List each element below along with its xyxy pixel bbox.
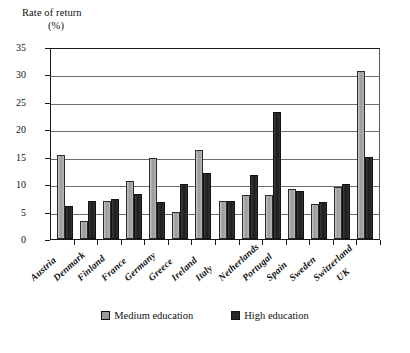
y-tick-label-10: 10 — [0, 180, 26, 190]
bar-greece-medium — [172, 212, 180, 239]
bar-portugal-medium — [265, 195, 273, 239]
legend-item-medium-education: Medium education — [101, 310, 193, 321]
x-axis-label-ireland: Ireland — [169, 254, 199, 283]
x-axis-label-austria: Austria — [28, 254, 58, 283]
y-tick-label-0: 0 — [0, 235, 26, 245]
bar-netherlands-high — [250, 175, 258, 239]
bar-group-finland — [103, 49, 119, 239]
bar-sweden-high — [319, 202, 327, 239]
bar-greece-high — [180, 184, 188, 239]
y-tick-mark-0 — [45, 240, 50, 241]
bar-sweden-medium — [311, 204, 319, 239]
bar-spain-high — [296, 191, 304, 239]
bar-finland-medium — [103, 201, 111, 239]
legend-swatch-medium-icon — [101, 311, 110, 320]
y-tick-label-5: 5 — [0, 208, 26, 218]
bar-uk-medium — [357, 71, 365, 239]
y-axis-title: Rate of return (%) — [22, 6, 82, 32]
bar-italy-high — [227, 201, 235, 239]
bar-austria-high — [65, 206, 73, 239]
legend-swatch-high-icon — [231, 311, 240, 320]
bar-group-switzerland — [334, 49, 350, 239]
bar-group-italy — [219, 49, 235, 239]
bar-finland-high — [111, 199, 119, 239]
y-axis-title-line1: Rate of return — [22, 7, 82, 18]
legend-label-high: High education — [244, 310, 308, 321]
bar-group-spain — [288, 49, 304, 239]
bar-group-sweden — [311, 49, 327, 239]
y-tick-label-35: 35 — [0, 43, 26, 53]
bar-spain-medium — [288, 189, 296, 239]
bar-portugal-high — [273, 112, 281, 239]
x-axis-label-uk: UK — [334, 266, 352, 283]
y-tick-label-30: 30 — [0, 70, 26, 80]
bar-switzerland-high — [342, 184, 350, 239]
bar-group-germany — [149, 49, 165, 239]
bar-denmark-high — [88, 201, 96, 239]
bar-italy-medium — [219, 201, 227, 239]
bar-group-uk — [357, 49, 373, 239]
chart-legend: Medium education High education — [0, 310, 410, 321]
bar-france-high — [134, 194, 142, 239]
bar-austria-medium — [57, 155, 65, 239]
bar-group-netherlands — [242, 49, 258, 239]
y-axis-title-line2: (%) — [22, 19, 82, 32]
y-tick-label-15: 15 — [0, 153, 26, 163]
bar-switzerland-medium — [334, 187, 342, 239]
x-tick-mark-uk — [380, 240, 381, 245]
bar-ireland-medium — [195, 150, 203, 239]
bar-uk-high — [365, 157, 373, 239]
bar-netherlands-medium — [242, 195, 250, 239]
bar-group-greece — [172, 49, 188, 239]
y-tick-label-20: 20 — [0, 125, 26, 135]
chart-container: Rate of return (%) 05101520253035 Austri… — [0, 0, 410, 353]
bar-group-france — [126, 49, 142, 239]
bar-group-austria — [57, 49, 73, 239]
x-axis-labels: AustriaDenmarkFinlandFranceGermanyGreece… — [50, 244, 380, 306]
bar-groups — [51, 49, 379, 239]
x-axis-label-sweden: Sweden — [287, 254, 318, 283]
bar-group-denmark — [80, 49, 96, 239]
bar-france-medium — [126, 181, 134, 239]
y-tick-label-25: 25 — [0, 98, 26, 108]
legend-item-high-education: High education — [231, 310, 308, 321]
bar-group-portugal — [265, 49, 281, 239]
legend-label-medium: Medium education — [114, 310, 193, 321]
bar-germany-high — [157, 202, 165, 239]
bar-group-ireland — [195, 49, 211, 239]
bar-denmark-medium — [80, 221, 88, 239]
bar-ireland-high — [203, 173, 211, 239]
plot-area — [50, 48, 380, 240]
bar-germany-medium — [149, 158, 157, 239]
